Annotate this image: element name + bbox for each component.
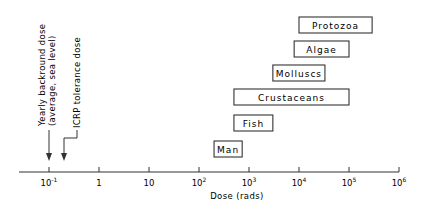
x-tick-label: 106 (392, 176, 407, 188)
x-tick-label: 1 (96, 178, 101, 188)
background-dose-label: Yearly backround dose(average, sea level… (37, 24, 57, 127)
x-axis-title: Dose (rads) (210, 191, 264, 201)
x-axis: 10-1110102103104105106 (19, 167, 407, 188)
annotations: Yearly backround dose(average, sea level… (37, 24, 82, 161)
range-box-label: Fish (243, 119, 264, 129)
range-box-man: Man (214, 141, 242, 157)
icrp-arrow-head-icon (61, 153, 67, 161)
x-tick-label: 102 (192, 176, 207, 188)
background-arrow-head-icon (46, 153, 52, 161)
range-box-label: Molluscs (276, 69, 322, 79)
range-box-crustaceans: Crustaceans (234, 89, 349, 105)
x-tick-label: 104 (292, 176, 307, 188)
dose-chart: ProtozoaAlgaeMolluscsCrustaceansFishMan … (0, 0, 424, 211)
range-box-fish: Fish (234, 115, 273, 131)
range-box-label: Man (217, 145, 239, 155)
x-tick-label: 10-1 (41, 176, 58, 188)
range-box-label: Crustaceans (258, 93, 325, 103)
x-tick-label: 103 (242, 176, 257, 188)
x-tick-label: 105 (342, 176, 357, 188)
range-box-protozoa: Protozoa (299, 17, 372, 33)
icrp-dose-label: ICRP tolerance dose (72, 37, 82, 128)
range-box-label: Algae (306, 45, 336, 55)
x-tick-label: 10 (144, 178, 155, 188)
range-box-label: Protozoa (312, 21, 359, 31)
range-box-molluscs: Molluscs (273, 65, 325, 81)
range-box-algae: Algae (294, 41, 349, 57)
organism-range-boxes: ProtozoaAlgaeMolluscsCrustaceansFishMan (214, 17, 372, 157)
